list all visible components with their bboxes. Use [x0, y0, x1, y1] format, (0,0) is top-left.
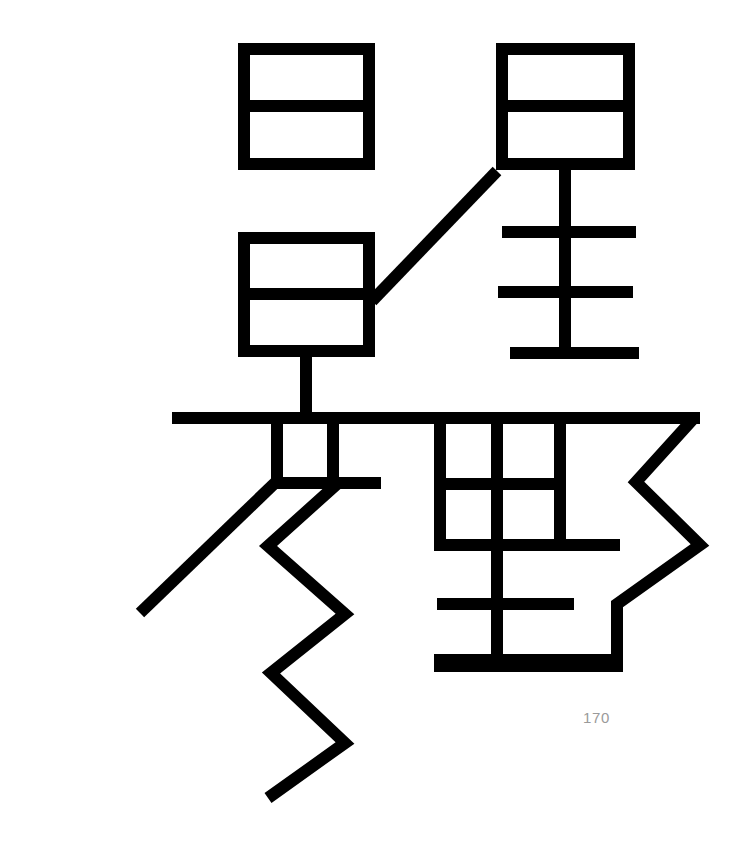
page-number: 170 [583, 709, 610, 726]
page-canvas: 170 [0, 0, 745, 850]
cjk-character-glyph [0, 0, 745, 850]
